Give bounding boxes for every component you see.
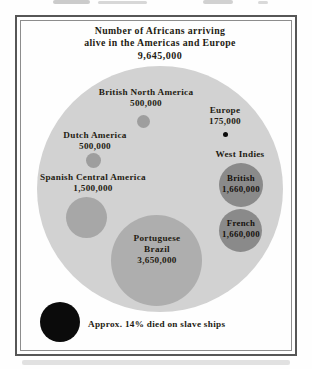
chart-title-line2: alive in the Americas and Europe	[37, 37, 283, 49]
bubble-spanish-central-america	[66, 197, 107, 238]
region-value: 3,650,000	[107, 255, 207, 266]
scan-artifact	[203, 0, 233, 4]
label-europe: Europe 175,000	[185, 105, 265, 128]
bubble-dutch-america	[86, 153, 101, 168]
scan-artifact	[98, 1, 147, 4]
label-spanish-central-america: Spanish Central America 1,500,000	[13, 172, 173, 195]
note-died-on-ships: Approx. 14% died on slave ships	[88, 319, 258, 330]
region-value: 500,000	[35, 141, 155, 152]
total-value: 9,645,000	[37, 50, 283, 62]
region-name: Spanish Central America	[13, 172, 173, 183]
scan-artifact	[53, 0, 90, 4]
region-name-line1: Portuguese	[107, 233, 207, 244]
label-portuguese-brazil: Portuguese Brazil 3,650,000	[107, 233, 207, 267]
label-dutch-america: Dutch America 500,000	[35, 130, 155, 153]
region-name-line2: Brazil	[107, 244, 207, 255]
region-name: British North America	[66, 87, 226, 98]
label-west-indies-british: British 1,660,000	[211, 173, 271, 195]
chart-title: Number of Africans arriving alive in the…	[37, 25, 283, 48]
region-name: Europe	[185, 105, 265, 116]
bubble-europe	[223, 132, 228, 137]
region-value: 175,000	[185, 116, 265, 127]
chart-title-line1: Number of Africans arriving	[37, 25, 283, 37]
label-west-indies-french: French 1,660,000	[211, 218, 271, 240]
region-value: 1,660,000	[211, 229, 271, 240]
bubble-died-on-ships	[40, 302, 80, 342]
scan-artifact	[258, 1, 268, 4]
region-value: 1,500,000	[13, 183, 173, 194]
region-name: French	[211, 218, 271, 229]
region-name: British	[211, 173, 271, 184]
west-indies-heading: West Indies	[180, 149, 300, 160]
bubble-british-north-america	[137, 115, 150, 128]
page-shadow-band	[22, 360, 290, 365]
region-value: 1,660,000	[211, 184, 271, 195]
region-name: Dutch America	[35, 130, 155, 141]
scanned-page: Number of Africans arriving alive in the…	[0, 0, 312, 369]
